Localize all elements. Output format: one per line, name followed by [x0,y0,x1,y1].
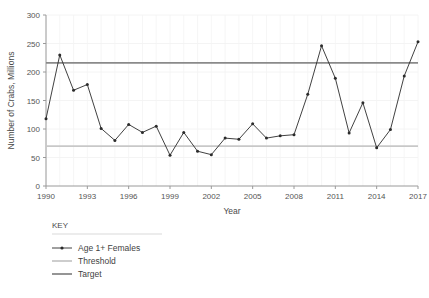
x-tick-label: 2002 [202,192,220,201]
data-point [417,40,420,43]
x-tick-label: 1993 [78,192,96,201]
data-point [224,137,227,140]
data-point [306,93,309,96]
x-tick-label: 2017 [409,192,427,201]
data-series-line-age-1-plus-females [46,42,418,155]
data-point [182,131,185,134]
legend-item-label: Target [78,269,102,279]
chart-canvas: 0501001502002503001990199319961999200220… [0,0,429,298]
y-axis-ticks: 050100150200250300 [27,11,46,191]
y-tick-label: 300 [27,11,41,20]
data-point [375,146,378,149]
data-point [293,133,296,136]
x-tick-label: 1996 [120,192,138,201]
data-point [45,117,48,120]
x-tick-label: 2014 [368,192,386,201]
data-point [251,122,254,125]
data-point [141,131,144,134]
grid-lines [46,15,418,186]
data-point [389,128,392,131]
data-point [265,137,268,140]
data-point [58,53,61,56]
y-tick-label: 150 [27,97,41,106]
data-point [86,83,89,86]
y-tick-label: 0 [36,182,41,191]
legend-title: KEY [52,221,69,230]
legend-item-threshold[interactable]: Threshold [52,256,116,266]
x-tick-label: 2005 [244,192,262,201]
data-point [113,139,116,142]
legend-item-target[interactable]: Target [52,269,102,279]
data-point [155,125,158,128]
crab-abundance-chart: 0501001502002503001990199319961999200220… [0,0,429,298]
x-tick-label: 1990 [37,192,55,201]
data-point [100,127,103,130]
x-axis-ticks: 1990199319961999200220052008201120142017 [37,186,427,201]
data-point [196,150,199,153]
data-point [348,131,351,134]
y-axis-title: Number of Crabs, Millions [6,52,16,150]
x-tick-label: 1999 [161,192,179,201]
x-tick-label: 2008 [285,192,303,201]
data-point [334,77,337,80]
y-tick-label: 100 [27,125,41,134]
legend-item-label: Age 1+ Females [78,243,140,253]
legend: KEYAge 1+ FemalesThresholdTarget [52,221,162,279]
data-point [210,153,213,156]
y-tick-label: 50 [31,154,40,163]
legend-swatch-marker [60,246,63,249]
data-point [403,74,406,77]
data-point [237,138,240,141]
data-point [72,89,75,92]
data-point [169,154,172,157]
x-axis-title: Year [223,206,240,216]
data-point [127,123,130,126]
legend-item-age-1-females[interactable]: Age 1+ Females [52,243,140,253]
data-point [361,101,364,104]
x-tick-label: 2011 [327,192,345,201]
legend-item-label: Threshold [78,256,116,266]
y-tick-label: 200 [27,68,41,77]
data-point [320,44,323,47]
y-tick-label: 250 [27,40,41,49]
data-point [279,134,282,137]
